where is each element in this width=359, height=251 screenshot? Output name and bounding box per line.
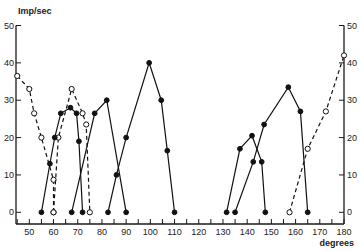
- y-axis-title: Imp/sec: [18, 6, 52, 16]
- data-point: [224, 210, 229, 215]
- data-point: [74, 111, 79, 116]
- data-point: [165, 148, 170, 153]
- x-tick-label: 110: [167, 227, 181, 237]
- data-point: [58, 111, 63, 116]
- chart: 01020304050 01020304050 5060708090100110…: [0, 0, 359, 251]
- data-point: [298, 109, 303, 114]
- data-point: [233, 210, 238, 215]
- series-line: [108, 63, 175, 212]
- data-point: [251, 159, 256, 164]
- x-tick-label: 90: [121, 227, 131, 237]
- series-layer: [15, 53, 347, 215]
- y-tick-label-left: 0: [9, 207, 14, 217]
- y-tick-label-left: 10: [4, 170, 14, 180]
- data-point: [263, 210, 268, 215]
- data-point: [262, 122, 267, 127]
- data-point: [114, 173, 119, 178]
- data-point: [286, 85, 291, 90]
- x-tick-label: 160: [288, 227, 303, 237]
- data-point: [104, 98, 109, 103]
- data-point: [87, 210, 92, 215]
- data-point: [32, 111, 37, 116]
- data-point: [250, 133, 255, 138]
- data-point: [15, 73, 20, 78]
- y-tick-label-right: 10: [347, 170, 357, 180]
- x-tick-label: 130: [215, 227, 230, 237]
- series-line: [17, 76, 53, 212]
- series-dashed-open-3: [287, 53, 347, 215]
- x-tick-label: 70: [73, 227, 83, 237]
- y-tick-label-left: 50: [4, 21, 14, 31]
- data-point: [147, 60, 152, 65]
- data-point: [77, 139, 82, 144]
- y-tick-label-right: 0: [347, 207, 352, 217]
- data-point: [287, 210, 292, 215]
- data-point: [69, 86, 74, 91]
- data-point: [305, 146, 310, 151]
- y-tick-label-right: 50: [347, 21, 357, 31]
- x-tick-label: 150: [264, 227, 279, 237]
- x-tick-label: 170: [312, 227, 327, 237]
- series-line: [227, 136, 266, 213]
- x-tick-label: 80: [97, 227, 107, 237]
- series-line: [235, 87, 308, 212]
- x-tick-label: 180: [336, 227, 351, 237]
- data-point: [39, 210, 44, 215]
- y-tick-label-right: 20: [347, 133, 357, 143]
- data-point: [80, 210, 85, 215]
- data-point: [259, 159, 264, 164]
- x-tick-label: 140: [240, 227, 255, 237]
- series-solid-filled-5: [233, 85, 310, 215]
- data-point: [52, 135, 57, 140]
- data-point: [51, 210, 56, 215]
- data-point: [39, 135, 44, 140]
- data-point: [68, 105, 73, 110]
- series-solid-filled-1: [39, 105, 85, 214]
- x-tick-label: 120: [191, 227, 206, 237]
- data-point: [84, 122, 89, 127]
- data-point: [238, 146, 243, 151]
- data-point: [305, 210, 310, 215]
- data-point: [124, 210, 129, 215]
- x-tick-label: 100: [143, 227, 158, 237]
- x-axis-title: degrees: [319, 238, 354, 248]
- y-tick-label-left: 40: [4, 58, 14, 68]
- data-point: [69, 210, 74, 215]
- data-point: [106, 210, 111, 215]
- data-point: [172, 210, 177, 215]
- data-point: [80, 111, 85, 116]
- data-point: [323, 109, 328, 114]
- y-tick-label-right: 40: [347, 58, 357, 68]
- series-dashed-open-1: [15, 73, 57, 215]
- y-tick-label-left: 30: [4, 95, 14, 105]
- data-point: [92, 111, 97, 116]
- x-ticks: 5060708090100110120130140150160170180: [17, 219, 351, 237]
- left-y-ticks: 01020304050: [4, 21, 21, 218]
- data-point: [47, 161, 52, 166]
- y-tick-label-right: 30: [347, 95, 357, 105]
- x-tick-label: 50: [24, 227, 34, 237]
- y-tick-label-left: 20: [4, 133, 14, 143]
- series-line: [290, 55, 344, 212]
- data-point: [124, 135, 129, 140]
- x-tick-label: 60: [49, 227, 59, 237]
- series-solid-filled-3: [106, 60, 177, 214]
- series-solid-filled-4: [224, 133, 268, 214]
- data-point: [341, 53, 346, 58]
- right-y-ticks: 01020304050: [339, 21, 357, 218]
- data-point: [159, 98, 164, 103]
- data-point: [27, 86, 32, 91]
